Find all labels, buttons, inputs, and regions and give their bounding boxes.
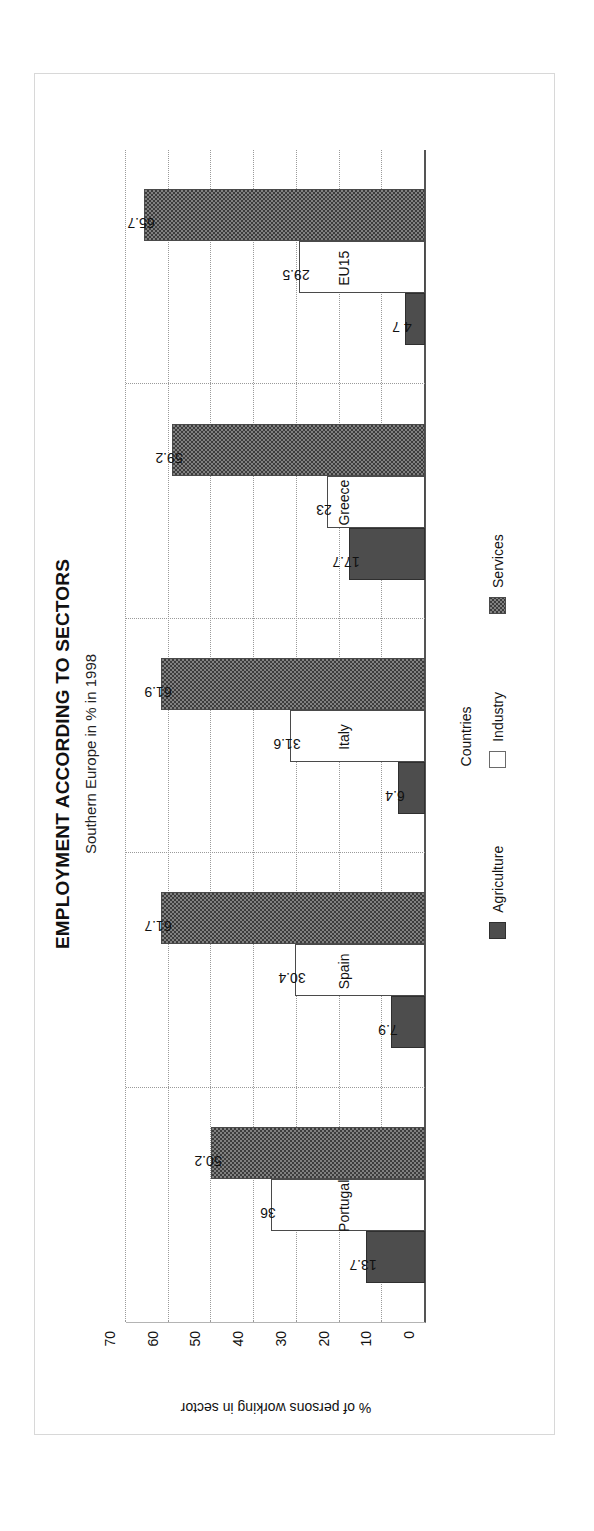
category-separator [126,852,425,853]
legend-swatch-services-icon [489,597,506,614]
bar-value-label: 7.9 [379,1022,398,1038]
plot-area: 70605040302010013.73650.27.930.461.76.43… [126,150,426,1323]
y-tick-label-50: 50 [187,1331,203,1347]
y-tick-label-60: 60 [145,1331,161,1347]
chart-legend: Agriculture Industry Services [489,150,506,1323]
legend-label-industry: Industry [490,692,506,742]
bar-value-label: 65.7 [128,215,155,231]
bar-spain-services[interactable]: 61.7 [161,892,425,944]
bar-italy-services[interactable]: 61.9 [161,658,425,710]
gridline-70 [125,150,126,1322]
y-tick-label-40: 40 [230,1331,246,1347]
chart-subtitle: Southern Europe in % in 1998 [82,73,99,1435]
y-axis-title: % of persons working in sector [126,1395,426,1421]
bar-value-label: 31.6 [273,736,300,752]
legend-item-services[interactable]: Services [489,534,506,614]
bar-eu15-services[interactable]: 65.7 [144,189,425,241]
bar-value-label: 6.4 [385,788,404,804]
bar-value-label: 4 7 [392,319,411,335]
x-tick-label-eu15: EU15 [336,251,352,286]
bar-value-label: 61.7 [145,918,172,934]
bar-spain-agriculture[interactable]: 7.9 [391,996,425,1048]
legend-label-services: Services [490,534,506,588]
legend-swatch-industry-icon [489,751,506,768]
bar-value-label: 29.5 [282,267,309,283]
bar-spain-industry[interactable]: 30.4 [295,944,425,996]
legend-label-agriculture: Agriculture [490,846,506,913]
bar-greece-services[interactable]: 59.2 [172,424,425,476]
bar-value-label: 50.2 [194,1153,221,1169]
y-tick-label-10: 10 [358,1331,374,1347]
bar-eu15-industry[interactable]: 29.5 [299,241,425,293]
chart-rotation-wrapper: EMPLOYMENT ACCORDING TO SECTORS Southern… [34,73,555,1435]
bar-italy-industry[interactable]: 31.6 [290,710,425,762]
gridline-60 [168,150,169,1322]
x-tick-label-italy: Italy [336,724,352,750]
legend-swatch-agriculture-icon [489,922,506,939]
bar-value-label: 61.9 [144,684,171,700]
y-tick-label-30: 30 [273,1331,289,1347]
bar-portugal-services[interactable]: 50.2 [211,1127,425,1179]
bar-value-label: 23 [316,502,332,518]
bar-value-label: 59.2 [156,450,183,466]
category-separator [126,1087,425,1088]
bar-value-label: 17.7 [333,554,360,570]
bar-value-label: 13.7 [350,1257,377,1273]
legend-item-industry[interactable]: Industry [489,692,506,768]
bar-greece-agriculture[interactable]: 17.7 [349,528,425,580]
bar-portugal-agriculture[interactable]: 13.7 [366,1231,425,1283]
chart-canvas: EMPLOYMENT ACCORDING TO SECTORS Southern… [34,73,555,1435]
category-separator [126,618,425,619]
bar-italy-agriculture[interactable]: 6.4 [398,762,425,814]
y-tick-label-20: 20 [316,1331,332,1347]
y-axis-title-label: % of persons working in sector [181,1400,372,1416]
y-tick-label-70: 70 [102,1331,118,1347]
chart-title-block: EMPLOYMENT ACCORDING TO SECTORS Southern… [52,73,99,1435]
legend-item-agriculture[interactable]: Agriculture [489,846,506,939]
y-tick-label-0: 0 [401,1331,417,1339]
page-title: EMPLOYMENT ACCORDING TO SECTORS [52,73,74,1435]
x-axis-title: Countries [458,150,474,1323]
x-tick-label-spain: Spain [336,954,352,990]
bar-value-label: 30.4 [279,970,306,986]
category-separator [126,383,425,384]
bar-value-label: 36 [260,1205,276,1221]
x-tick-label-greece: Greece [336,480,352,526]
x-tick-label-portugal: Portugal [336,1180,352,1232]
bar-eu15-agriculture[interactable]: 4 7 [405,293,425,345]
